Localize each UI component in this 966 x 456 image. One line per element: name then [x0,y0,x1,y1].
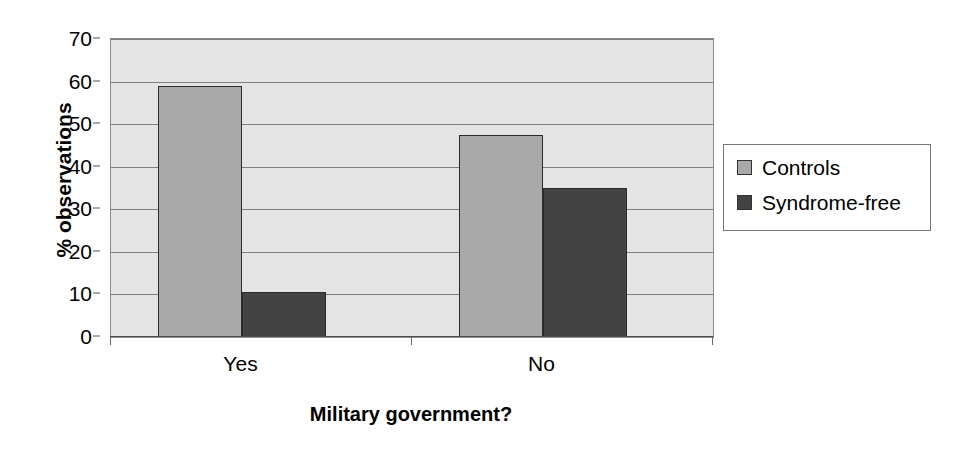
legend-entry-syndrome-free: Syndrome-free [737,192,901,213]
bar-no-syndrome-free [543,188,627,337]
y-axis-tick-mark [93,38,100,39]
bar-yes-syndrome-free [242,292,326,337]
y-axis-tick-mark [93,250,100,251]
y-axis-tick-label: 0 [80,326,92,347]
bar-chart-figure: % observations 010203040506070 YesNo Mil… [0,0,966,456]
legend-swatch-icon [737,160,752,175]
x-axis-category-label: No [528,352,555,376]
legend-label: Controls [762,157,840,178]
x-axis-tick-mark [712,337,713,345]
gridline [111,39,713,40]
y-axis-tick-mark [93,293,100,294]
plot-area [110,38,714,338]
bar-yes-controls [158,86,242,337]
y-axis-tick-mark [93,165,100,166]
legend: Controls Syndrome-free [723,144,931,231]
bar-no-controls [459,135,543,337]
y-axis-tick-label: 20 [69,240,92,261]
y-axis-tick-label: 60 [69,70,92,91]
y-axis-tick-mark [93,123,100,124]
y-axis-tick-mark [93,208,100,209]
y-axis-tick-label: 40 [69,155,92,176]
x-axis-category-label: Yes [223,352,257,376]
y-axis-tick-mark [93,80,100,81]
y-axis-tick-label: 10 [69,283,92,304]
x-axis-tick-mark [411,337,412,345]
x-axis-tick-mark [110,337,111,345]
legend-entry-controls: Controls [737,157,840,178]
gridline [111,82,713,83]
y-axis-tick-label: 70 [69,28,92,49]
y-axis-tick-labels: 010203040506070 [52,38,100,336]
x-axis-title: Military government? [110,403,712,426]
y-axis-tick-mark [93,336,100,337]
legend-label: Syndrome-free [762,192,901,213]
legend-swatch-icon [737,195,752,210]
y-axis-tick-label: 30 [69,198,92,219]
y-axis-tick-label: 50 [69,113,92,134]
